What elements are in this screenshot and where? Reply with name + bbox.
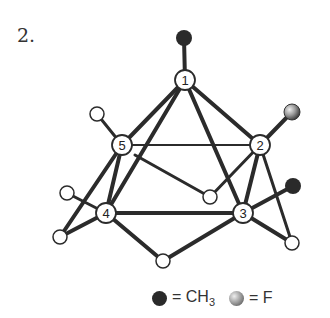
- hydrogen-atom: [156, 254, 170, 268]
- hydrogen-atom: [90, 107, 104, 121]
- node-label-1: 1: [181, 73, 188, 88]
- methyl-group: [176, 30, 192, 46]
- node-label-3: 3: [239, 206, 246, 221]
- hydrogen-atom: [60, 186, 74, 200]
- fluorine-legend-label: = F: [249, 289, 273, 307]
- fluorine-legend-icon: [229, 291, 244, 306]
- node-label-2: 2: [256, 138, 263, 153]
- fluorine-atom: [284, 104, 300, 120]
- node-label-4: 4: [102, 206, 109, 221]
- legend: = CH3 = F: [152, 288, 273, 308]
- methyl-group: [285, 178, 301, 194]
- hydrogen-atom: [53, 230, 67, 244]
- methyl-legend-icon: [152, 291, 167, 306]
- hydrogen-atom: [285, 236, 299, 250]
- molecule-diagram: 1 2 3 4 5: [0, 0, 330, 318]
- node-label-5: 5: [118, 138, 125, 153]
- hydrogen-atom: [203, 190, 217, 204]
- methyl-legend-label: = CH3: [172, 288, 215, 308]
